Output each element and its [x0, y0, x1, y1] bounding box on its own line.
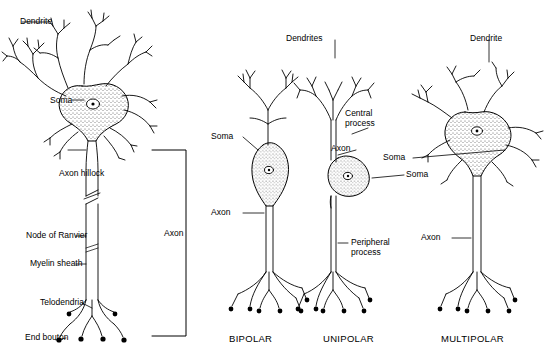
label-node-of-ranvier: Node of Ranvier [26, 230, 87, 240]
label-axon-bipolar: Axon [211, 207, 230, 217]
label-dendrites-unipolar: Dendrites [286, 33, 322, 43]
label-telodendria: Telodendria [40, 297, 84, 307]
label-dendrite-multipolar: Dendrite [470, 33, 502, 43]
label-soma-detail: Soma [50, 95, 72, 105]
panel-title-multipolar: MULTIPOLAR [441, 334, 504, 344]
label-axon-bracket: Axon [164, 228, 183, 238]
label-axon-unipolar: Axon [331, 143, 350, 153]
label-peripheral-process: Peripheral process [351, 237, 390, 257]
label-axon-hillock: Axon hillock [59, 168, 104, 178]
panel-title-unipolar: UNIPOLAR [323, 334, 374, 344]
panel-bipolar-art [229, 70, 310, 313]
label-dendrite-detail: Dendrite [20, 16, 52, 26]
panel-multipolar-art [412, 40, 543, 313]
panel-title-bipolar: BIPOLAR [229, 334, 272, 344]
label-end-bouton: End bouton [25, 332, 68, 342]
label-soma-bipolar: Soma [211, 131, 233, 141]
label-central-process: Central process [345, 108, 375, 128]
neuron-types-figure: Dendrite Soma Axon hillock Node of Ranvi… [0, 0, 554, 358]
panel-unipolar-art [294, 40, 404, 313]
label-axon-multipolar: Axon [421, 232, 440, 242]
label-myelin-sheath: Myelin sheath [30, 258, 82, 268]
label-soma-unipolar: Soma [406, 169, 428, 179]
label-soma-multipolar: Soma [383, 152, 405, 162]
